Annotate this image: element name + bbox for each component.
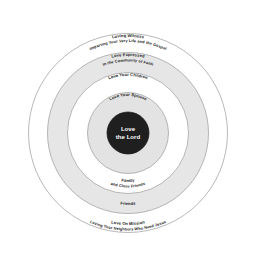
rings-svg: Loving Witness Imparting Your Very Life … <box>0 0 256 266</box>
label-family: Family <box>121 178 135 184</box>
concentric-circles-diagram: Loving Witness Imparting Your Very Life … <box>0 0 256 266</box>
center-label-line1: Love <box>121 125 136 132</box>
label-friends: Friends <box>120 201 136 206</box>
center-label-line2: the Lord <box>116 133 141 140</box>
